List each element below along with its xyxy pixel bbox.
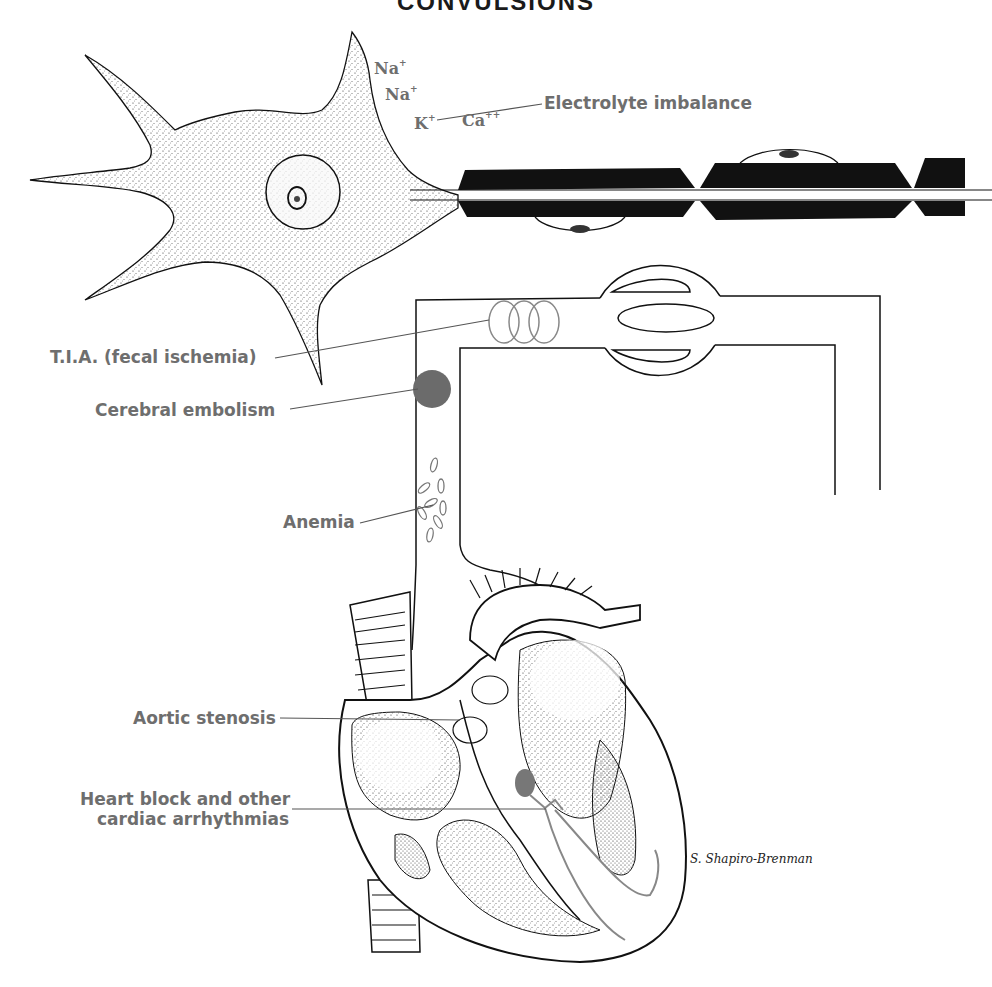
tia-coils (489, 301, 559, 343)
embolus (413, 370, 451, 408)
blood-vessel (412, 265, 880, 650)
ion-potassium: K+ (414, 113, 435, 133)
label-heart-block-line2: cardiac arrhythmias (97, 809, 289, 829)
myelinated-axon (410, 150, 992, 234)
illustration (0, 0, 992, 987)
label-anemia: Anemia (283, 512, 355, 532)
label-heart-block-line1: Heart block and other (80, 789, 290, 809)
ion-sodium-1: Na+ (374, 58, 407, 78)
ion-calcium: Ca++ (462, 110, 500, 130)
heart (339, 568, 686, 962)
red-blood-cells (416, 457, 446, 542)
label-electrolyte-imbalance: Electrolyte imbalance (544, 93, 752, 113)
av-node (515, 769, 535, 797)
label-tia: T.I.A. (fecal ischemia) (50, 347, 257, 367)
label-cerebral-embolism: Cerebral embolism (95, 400, 275, 420)
ion-sodium-2: Na+ (385, 84, 418, 104)
label-aortic-stenosis: Aortic stenosis (133, 708, 276, 728)
artist-signature: S. Shapiro-Brenman (690, 852, 813, 866)
